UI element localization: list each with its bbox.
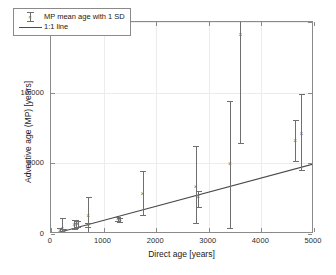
- gridline-horizontal: [51, 93, 312, 94]
- gridline-vertical: [156, 22, 157, 232]
- one-to-one-reference-line: [51, 163, 312, 232]
- error-bar-cap-lower: [299, 170, 305, 171]
- legend-item-one-to-one-line: 1:1 line: [18, 22, 125, 32]
- legend-item-mp-mean-age: × MP mean age with 1 SD: [18, 12, 125, 22]
- error-bar-cap-upper: [227, 101, 233, 102]
- error-bar-cap-lower: [72, 229, 78, 230]
- axis-tick-x: [314, 22, 315, 26]
- data-point-marker: ×: [141, 191, 145, 198]
- y-tick-label: 5000: [0, 158, 44, 167]
- axis-tick-y: [51, 93, 55, 94]
- error-bar-cap-upper: [140, 171, 146, 172]
- error-bar-cap-upper: [299, 94, 305, 95]
- axis-tick-x: [314, 228, 315, 232]
- error-bar-cap-lower: [140, 215, 146, 216]
- x-tick-label: 3000: [199, 236, 216, 245]
- error-bar-cap-upper: [60, 218, 66, 219]
- data-point-marker: ×: [86, 212, 90, 219]
- axis-tick-y: [51, 163, 55, 164]
- axis-tick-x: [156, 22, 157, 26]
- axis-tick-y: [308, 22, 312, 23]
- y-axis-title: Advective age (MP) [years]: [23, 47, 33, 217]
- error-bar-cap-upper: [193, 146, 199, 147]
- error-bar-cap-upper: [196, 191, 202, 192]
- error-bar-cap-upper: [293, 120, 299, 121]
- error-bar-cap-upper: [86, 197, 92, 198]
- data-point-marker: ×: [194, 183, 198, 190]
- y-tick-label: 0: [0, 229, 44, 238]
- x-tick-label: 4000: [252, 236, 269, 245]
- line-marker-icon: [18, 22, 44, 32]
- plot-area: ×××××××××××××××××: [51, 22, 312, 232]
- gridline-horizontal: [51, 163, 312, 164]
- gridline-vertical: [209, 22, 210, 232]
- legend-label-mp-mean-age: MP mean age with 1 SD: [44, 12, 125, 22]
- error-bar: [240, 22, 241, 143]
- legend: × MP mean age with 1 SD 1:1 line: [13, 8, 131, 36]
- error-bar-cap-lower: [193, 223, 199, 224]
- gridline-vertical: [104, 22, 105, 232]
- error-bar-cap-lower: [238, 143, 244, 144]
- data-point-marker: ×: [228, 161, 232, 168]
- error-bar-cap-lower: [75, 227, 81, 228]
- plot-frame: ×××××××××××××××××: [50, 21, 313, 233]
- error-bar-cap-lower: [293, 161, 299, 162]
- error-bar-cap-lower: [227, 228, 233, 229]
- errorbar-marker-icon: ×: [18, 12, 44, 22]
- axis-tick-x: [104, 228, 105, 232]
- x-tick-label: 2000: [147, 236, 164, 245]
- axis-tick-x: [261, 22, 262, 26]
- legend-label-one-to-one-line: 1:1 line: [44, 22, 68, 32]
- gridline-vertical: [261, 22, 262, 232]
- data-point-marker: ×: [118, 216, 122, 223]
- x-tick-label: 5000: [304, 236, 321, 245]
- axis-tick-x: [51, 228, 52, 232]
- x-tick-label: 1000: [94, 236, 111, 245]
- axis-tick-y: [308, 163, 312, 164]
- error-bar-cap-lower: [196, 207, 202, 208]
- axis-tick-x: [261, 228, 262, 232]
- data-point-marker: ×: [293, 138, 297, 145]
- x-tick-label: 0: [48, 236, 52, 245]
- data-point-marker: ×: [299, 130, 303, 137]
- data-point-marker: ×: [76, 221, 80, 228]
- axis-tick-x: [156, 228, 157, 232]
- figure: Advective age (MP) [years] ×××××××××××××…: [0, 0, 336, 275]
- axis-tick-x: [209, 22, 210, 26]
- data-point-marker: ×: [62, 228, 66, 232]
- x-axis-title: Direct age [years]: [50, 249, 313, 259]
- axis-tick-x: [209, 228, 210, 232]
- axis-tick-y: [308, 93, 312, 94]
- axis-tick-y: [308, 234, 312, 235]
- data-point-marker: ×: [238, 31, 242, 38]
- axis-tick-y: [51, 234, 55, 235]
- data-point-marker: ×: [196, 194, 200, 201]
- y-tick-label: 10 000: [0, 87, 44, 96]
